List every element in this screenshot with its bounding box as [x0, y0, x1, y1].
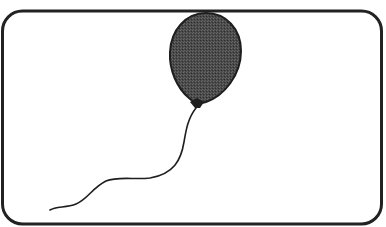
illustration-canvas	[0, 0, 386, 227]
balloon-illustration: Dark gray balloon with a long wavy strin…	[0, 0, 386, 227]
